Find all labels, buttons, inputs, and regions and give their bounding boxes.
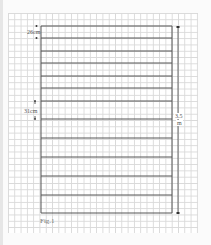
height-dim-bottom-tick xyxy=(177,212,180,214)
graph-paper-page: 26cm 31cm 3.5 m Fig.1 xyxy=(0,0,211,245)
height-label-value: 3.5 xyxy=(174,113,184,119)
height-label-unit: m xyxy=(176,120,183,126)
figure-caption: Fig.1 xyxy=(40,218,55,225)
lower-spacing-label: 31cm xyxy=(24,108,37,114)
dim-arrow-top-2 xyxy=(34,100,36,102)
top-spacing-label: 26cm xyxy=(27,29,40,35)
dim-arrow-bottom xyxy=(36,37,38,39)
height-dim-top-tick xyxy=(177,26,180,28)
dim-arrow-bottom-2 xyxy=(34,118,36,120)
rungs xyxy=(41,26,172,213)
dim-arrow-top xyxy=(36,25,38,27)
